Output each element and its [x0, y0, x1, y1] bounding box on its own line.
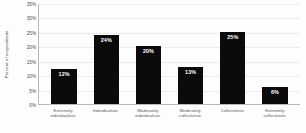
y-axis-tick-label: 10%: [27, 74, 36, 79]
bar-value-label: 6%: [271, 90, 279, 104]
y-axis-tick-label: 35%: [27, 2, 36, 7]
bar-series: 12%24%20%13%25%6%: [39, 4, 300, 104]
bar-value-label: 25%: [227, 35, 238, 104]
bar[interactable]: 13%: [178, 67, 203, 105]
y-axis-tick-label: 30%: [27, 16, 36, 21]
x-axis-category-label: Extremely collectivistic: [254, 108, 296, 133]
x-axis-category-labels: Extremely individualisticIndividualistic…: [38, 108, 300, 133]
bar-value-label: 13%: [185, 70, 196, 105]
bar-value-label: 24%: [101, 38, 112, 104]
bar[interactable]: 24%: [94, 35, 119, 104]
bar[interactable]: 25%: [220, 32, 245, 104]
x-axis-category-label: Moderately individualistic: [127, 108, 169, 133]
y-axis-tick-label: 15%: [27, 59, 36, 64]
bar[interactable]: 12%: [51, 69, 76, 104]
x-axis-category-label: Individualistic: [84, 108, 126, 133]
plot-area: 12%24%20%13%25%6%: [38, 4, 300, 105]
bar[interactable]: 6%: [262, 87, 287, 104]
y-axis-title: Percent of respondents: [0, 0, 14, 108]
bar-slot: 24%: [85, 4, 127, 104]
x-axis-category-label: Moderately collectivistic: [169, 108, 211, 133]
bar-slot: 12%: [43, 4, 85, 104]
y-axis-tick-label: 5%: [29, 88, 36, 93]
y-axis-title-text: Percent of respondents: [5, 30, 10, 78]
y-axis-tick-label: 0%: [29, 103, 36, 108]
bar-value-label: 20%: [143, 49, 154, 104]
bar-slot: 20%: [127, 4, 169, 104]
bar-slot: 25%: [212, 4, 254, 104]
bar-value-label: 12%: [59, 72, 70, 104]
x-axis-category-label: Collectivistic: [211, 108, 253, 133]
clipped-chart-title: [0, 0, 306, 3]
bar-slot: 6%: [254, 4, 296, 104]
bar[interactable]: 20%: [136, 46, 161, 104]
y-axis-tick-label: 25%: [27, 30, 36, 35]
y-axis-tick-label: 20%: [27, 45, 36, 50]
bar-slot: 13%: [170, 4, 212, 104]
y-axis-tick-labels: 0%5%10%15%20%25%30%35%: [14, 0, 38, 108]
x-axis-category-label: Extremely individualistic: [42, 108, 84, 133]
bar-chart: Percent of respondents 0%5%10%15%20%25%3…: [0, 0, 306, 133]
